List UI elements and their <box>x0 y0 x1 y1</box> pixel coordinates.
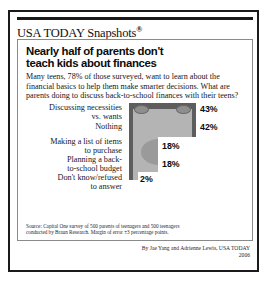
bar-label-line: Planning a back- <box>18 155 122 164</box>
bar-label: Nothing <box>18 122 122 131</box>
bar-label: Don't know/refused to answer <box>18 173 122 191</box>
bar-label-line: Making a list of items <box>18 137 122 146</box>
bar-label: Making a list of items to purchase <box>18 137 122 155</box>
bar-value: 43% <box>200 104 218 114</box>
masthead: USA TODAY Snapshots® <box>17 17 253 41</box>
source-note: Source: Capital One survey of 500 parent… <box>26 223 202 235</box>
bar-value: 42% <box>200 122 218 132</box>
bar-label-line: to answer <box>18 182 122 191</box>
table-row: Don't know/refused to answer 2% <box>18 173 252 190</box>
bar-label-line: Nothing <box>18 122 122 131</box>
headline-line-1: Nearly half of parents don't <box>26 45 244 57</box>
snapshot-frame: USA TODAY Snapshots® Nearly half of pare… <box>8 10 259 272</box>
bar-label-line: Don't know/refused <box>18 173 122 182</box>
bar-label: Discussing necessities vs. wants <box>18 103 122 121</box>
bar-chart: Discussing necessities vs. wants 43% Not… <box>18 103 252 199</box>
byline-year: 2006 <box>40 252 250 259</box>
table-row: Discussing necessities vs. wants 43% <box>18 103 252 120</box>
snapshot-content-box: Nearly half of parents don't teach kids … <box>17 39 253 241</box>
bar-value: 2% <box>140 174 153 184</box>
bar-value: 18% <box>162 159 180 169</box>
headline-line-2: teach kids about finances <box>26 57 244 69</box>
table-row: Planning a back- to-school budget 18% <box>18 155 252 172</box>
bar-label-line: to purchase <box>18 146 122 155</box>
masthead-brand: USA TODAY Snapshots® <box>17 20 253 41</box>
byline: By Jae Yang and Adrienne Lewis, USA TODA… <box>40 245 250 260</box>
bar-label-line: vs. wants <box>18 112 122 121</box>
bar-label: Planning a back- to-school budget <box>18 155 122 173</box>
bar-label-line: to-school budget <box>18 164 122 173</box>
registered-trademark-icon: ® <box>136 25 142 34</box>
table-row: Making a list of items to purchase 18% <box>18 137 252 154</box>
page-title: Nearly half of parents don't teach kids … <box>18 40 252 69</box>
intro-paragraph: Many teens, 78% of those surveyed, want … <box>18 69 252 100</box>
bar-value: 18% <box>162 141 180 151</box>
bar-label-line: Discussing necessities <box>18 103 122 112</box>
byline-authors: By Jae Yang and Adrienne Lewis, USA TODA… <box>40 245 250 252</box>
